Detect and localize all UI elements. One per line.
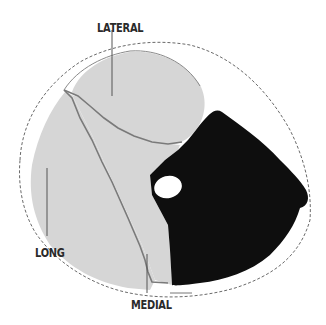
diagram-canvas: LATERAL LONG MEDIAL [0,0,326,325]
label-medial: MEDIAL [131,298,172,312]
label-long: LONG [35,246,65,260]
cross-section-figure [0,0,326,325]
label-lateral: LATERAL [97,21,143,35]
